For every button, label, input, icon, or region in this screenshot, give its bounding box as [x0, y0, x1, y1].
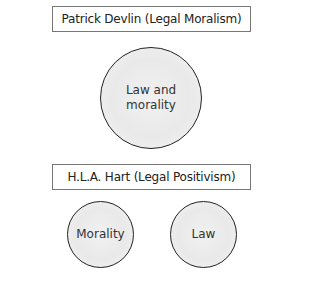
devlin-title-box: Patrick Devlin (Legal Moralism)	[52, 6, 251, 32]
morality-circle: Morality	[67, 201, 134, 268]
law-and-morality-line1: Law and	[126, 83, 176, 98]
law-label: Law	[192, 227, 216, 242]
law-and-morality-line2: morality	[126, 98, 176, 113]
law-and-morality-circle: Law and morality	[100, 47, 202, 149]
hart-title: H.L.A. Hart (Legal Positivism)	[67, 170, 235, 184]
devlin-title: Patrick Devlin (Legal Moralism)	[62, 12, 242, 26]
morality-label: Morality	[76, 227, 124, 242]
hart-title-box: H.L.A. Hart (Legal Positivism)	[52, 164, 251, 190]
law-circle: Law	[170, 201, 237, 268]
